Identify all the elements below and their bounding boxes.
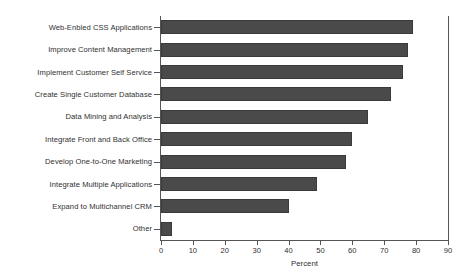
x-axis-tick bbox=[352, 240, 353, 245]
x-axis-tick-label: 40 bbox=[277, 246, 301, 255]
x-axis-tick bbox=[384, 240, 385, 245]
x-axis-tick bbox=[416, 240, 417, 245]
x-axis-tick bbox=[289, 240, 290, 245]
x-axis-ticks: 0102030405060708090 bbox=[0, 0, 470, 277]
x-axis-tick-label: 10 bbox=[181, 246, 205, 255]
x-axis-tick bbox=[320, 240, 321, 245]
x-axis-tick bbox=[225, 240, 226, 245]
x-axis-tick bbox=[193, 240, 194, 245]
x-axis-tick-label: 70 bbox=[372, 246, 396, 255]
x-axis-tick-label: 90 bbox=[436, 246, 460, 255]
x-axis-tick-label: 80 bbox=[404, 246, 428, 255]
x-axis-tick-label: 60 bbox=[340, 246, 364, 255]
x-axis-tick-label: 20 bbox=[213, 246, 237, 255]
horizontal-bar-chart: Web-Enbled CSS ApplicationsImprove Conte… bbox=[0, 0, 470, 277]
x-axis-tick-label: 50 bbox=[308, 246, 332, 255]
x-axis-title: Percent bbox=[160, 259, 449, 268]
x-axis-tick bbox=[257, 240, 258, 245]
x-axis-tick-label: 0 bbox=[149, 246, 173, 255]
x-axis-tick bbox=[448, 240, 449, 245]
x-axis-tick-label: 30 bbox=[245, 246, 269, 255]
x-axis-tick bbox=[161, 240, 162, 245]
